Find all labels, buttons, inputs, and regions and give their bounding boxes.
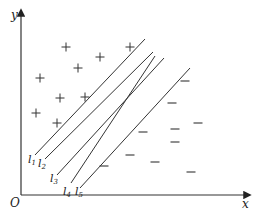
- labels: yxOl1l2l3l4l5: [10, 8, 249, 211]
- y-axis-label: y: [10, 8, 18, 22]
- separating-lines: [35, 39, 190, 188]
- negative-points: [100, 81, 203, 172]
- x-axis-label: x: [242, 197, 249, 211]
- plus-marker: [126, 43, 135, 52]
- diagram-svg: yxOl1l2l3l4l5: [0, 0, 259, 218]
- line-label-l1: l1: [28, 153, 36, 167]
- origin-label: O: [10, 196, 20, 210]
- axes: [21, 10, 250, 195]
- plus-marker: [36, 74, 45, 83]
- line-l2: [45, 52, 153, 159]
- plus-marker: [96, 53, 105, 62]
- plus-marker: [53, 119, 62, 128]
- plus-marker: [62, 43, 71, 52]
- plus-marker: [74, 64, 83, 73]
- plus-marker: [56, 94, 65, 103]
- plus-marker: [81, 93, 90, 102]
- diagram-canvas: yxOl1l2l3l4l5: [0, 0, 259, 218]
- plus-marker: [32, 109, 41, 118]
- line-label-l4: l4: [63, 185, 71, 199]
- line-label-l5: l5: [75, 185, 84, 199]
